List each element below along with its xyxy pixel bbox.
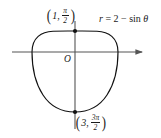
angle-fraction-bottom: 3π 2 xyxy=(90,114,101,131)
coordinate-pair-top: 1, π 2 xyxy=(52,7,70,24)
angle-fraction-top: π 2 xyxy=(61,7,69,24)
left-paren-icon: ( xyxy=(47,9,51,23)
left-paren-icon: ( xyxy=(76,116,80,130)
right-paren-icon: ) xyxy=(70,9,74,23)
point-label-top: ( 1, π 2 ) xyxy=(46,7,75,24)
coordinate-pair-bottom: 3, 3π 2 xyxy=(81,114,102,131)
equation-variable: θ xyxy=(143,13,148,24)
origin-label: O xyxy=(64,55,71,65)
angle-denominator-bottom: 2 xyxy=(93,123,99,131)
equation-function-name: sin xyxy=(129,13,141,24)
angle-denominator-top: 2 xyxy=(62,16,68,24)
equation-label: r = 2 − sin θ xyxy=(99,14,148,24)
angle-numerator-bottom: 3π xyxy=(91,114,101,122)
point-marker-top xyxy=(73,29,77,33)
point-label-bottom: ( 3, 3π 2 ) xyxy=(75,114,107,131)
paren-group-bottom: ( 3, 3π 2 ) xyxy=(75,114,107,131)
paren-group-top: ( 1, π 2 ) xyxy=(46,7,75,24)
polar-plot-figure: ( 1, π 2 ) ( 3, 3π 2 xyxy=(0,0,161,138)
right-paren-icon: ) xyxy=(102,116,106,130)
angle-numerator-top: π xyxy=(62,7,68,15)
